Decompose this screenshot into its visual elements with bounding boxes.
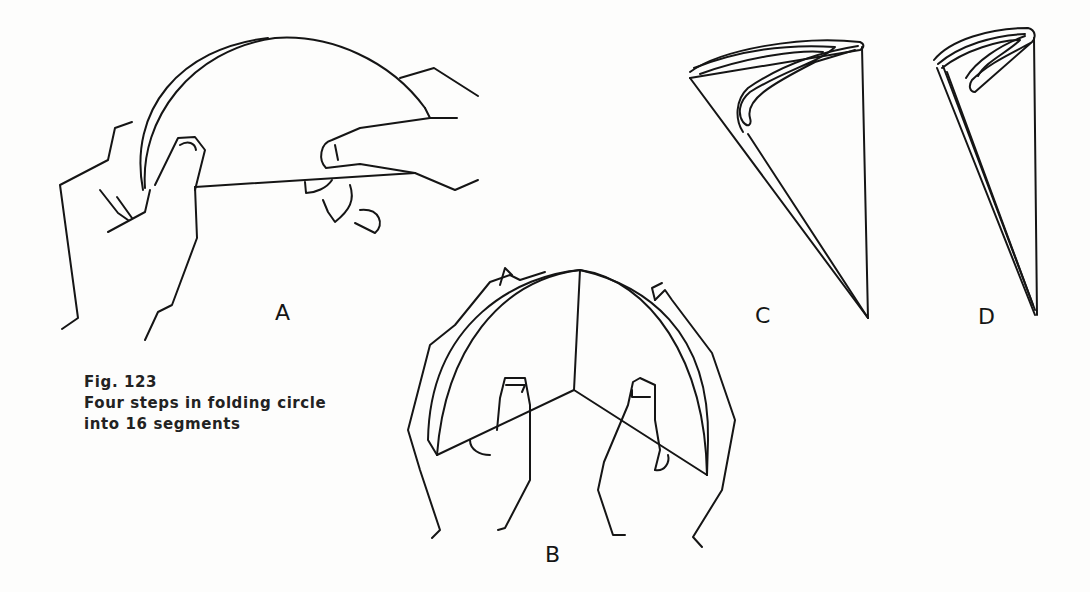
panel-a-drawing <box>60 38 478 340</box>
figure-caption: Fig. 123 Four steps in folding circle in… <box>84 372 326 435</box>
caption-line-2: into 16 segments <box>84 414 326 435</box>
panel-d-label: D <box>978 304 995 329</box>
illustration: A B C <box>0 0 1090 592</box>
panel-d-drawing <box>934 28 1037 315</box>
panel-a-label: A <box>275 300 290 325</box>
panel-c-label: C <box>755 303 770 328</box>
panel-c-drawing <box>690 40 868 318</box>
caption-line-1: Four steps in folding circle <box>84 393 326 414</box>
panel-b-drawing <box>408 268 735 547</box>
panel-b-label: B <box>545 542 560 567</box>
figure-number: Fig. 123 <box>84 372 326 393</box>
